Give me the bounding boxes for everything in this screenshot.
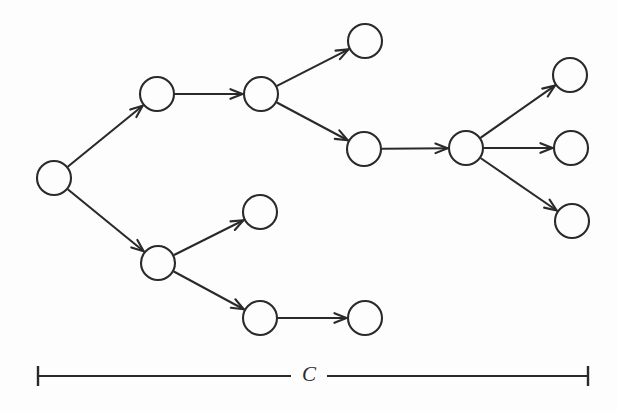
edge-lower-level1-to-level2 bbox=[174, 272, 243, 309]
edge-root-to-lower-level1 bbox=[68, 190, 143, 252]
upper-level1-node bbox=[140, 77, 174, 111]
lower-upper-leaf-node bbox=[243, 195, 277, 229]
lower-leaf-node bbox=[348, 301, 382, 335]
lower-level1-node bbox=[141, 246, 175, 280]
edge-lower-level1-to-upper-leaf bbox=[175, 220, 244, 254]
right-middle-leaf-node bbox=[554, 131, 588, 165]
edge-upper-level3-to-hub bbox=[383, 143, 448, 153]
edge-lower-level2-to-leaf bbox=[279, 313, 347, 323]
edge-hub-to-right-middle-leaf bbox=[485, 143, 553, 153]
nodes-layer bbox=[37, 24, 589, 335]
edges-layer bbox=[68, 49, 556, 322]
edge-upper-level2-to-level3 bbox=[277, 103, 347, 141]
upper-level3-node bbox=[347, 132, 381, 166]
lower-level2-node bbox=[243, 301, 277, 335]
edge-hub-to-right-top-leaf bbox=[481, 86, 555, 138]
edge-hub-to-right-bottom-leaf bbox=[481, 158, 557, 210]
right-top-leaf-node bbox=[553, 58, 587, 92]
tree-diagram-svg bbox=[0, 0, 617, 412]
right-bottom-leaf-node bbox=[555, 204, 589, 238]
upper-level2-node bbox=[244, 77, 278, 111]
figure-container: C bbox=[0, 0, 617, 412]
edge-root-to-upper-level1 bbox=[68, 106, 142, 167]
edge-upper-level1-to-level2 bbox=[176, 89, 243, 99]
root-node bbox=[37, 161, 71, 195]
upper-leaf-node bbox=[348, 24, 382, 58]
edge-upper-level2-to-leaf bbox=[277, 49, 348, 85]
scale-bar-label: C bbox=[302, 362, 316, 387]
hub-node bbox=[449, 131, 483, 165]
